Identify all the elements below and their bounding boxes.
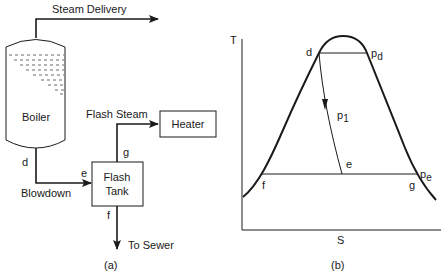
flash-tank bbox=[92, 162, 143, 206]
flash-tank-label-line1: Flash bbox=[104, 171, 131, 183]
point-f-label-a: f bbox=[107, 209, 111, 221]
blowdown-label: Blowdown bbox=[21, 187, 71, 199]
heater-label: Heater bbox=[171, 118, 204, 130]
point-d-label-b: d bbox=[306, 46, 312, 58]
axis-x-label: S bbox=[337, 234, 344, 246]
axis-y-label: T bbox=[230, 34, 237, 46]
point-e-label-a: e bbox=[81, 167, 87, 179]
panel-b-caption: (b) bbox=[331, 259, 344, 271]
point-f-label-b: f bbox=[262, 179, 266, 191]
flash-steam-label: Flash Steam bbox=[86, 108, 148, 120]
panel-a-caption: (a) bbox=[104, 259, 117, 271]
steam-delivery-label: Steam Delivery bbox=[52, 3, 127, 15]
point-g-label-a: g bbox=[123, 146, 129, 158]
to-sewer-label: To Sewer bbox=[128, 239, 174, 251]
steam-delivery-pipe bbox=[36, 19, 158, 38]
point-d-label-a: d bbox=[22, 156, 28, 168]
boiler-label: Boiler bbox=[22, 111, 50, 123]
panel-b-ts-diagram: T S d pd p1 e f g pe (b) bbox=[230, 34, 441, 271]
pressure-pd-label: pd bbox=[371, 47, 383, 62]
flash-tank-diagram: Steam Delivery Boiler d e Blowdown Flash… bbox=[0, 0, 442, 277]
point-g-label-b: g bbox=[409, 179, 415, 191]
ts-axes bbox=[242, 39, 441, 230]
pressure-p1-label: p1 bbox=[337, 109, 349, 124]
point-e-label-b: e bbox=[346, 158, 352, 170]
panel-a-schematic: Steam Delivery Boiler d e Blowdown Flash… bbox=[6, 3, 216, 271]
flash-tank-label-line2: Tank bbox=[105, 185, 129, 197]
boiler-vessel bbox=[6, 40, 65, 149]
